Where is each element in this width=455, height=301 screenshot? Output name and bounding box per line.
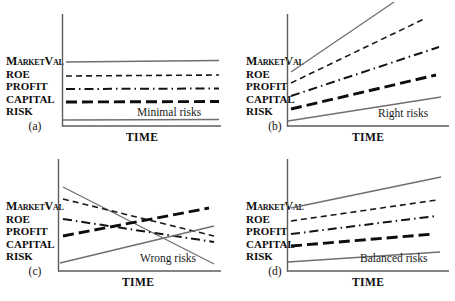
plot-area-a	[0, 0, 227, 150]
x-axis-title-a: TIME	[126, 131, 158, 143]
series-line-capital	[66, 102, 219, 103]
plot-area-b	[228, 0, 455, 150]
series-line-roe	[66, 75, 219, 76]
panel-d: MarketVal ROE PROFIT CAPITAL RISK (d) Ba…	[228, 150, 455, 300]
series-line-marketval	[291, 2, 394, 72]
series-line-roe	[291, 19, 424, 83]
x-axis-title-c: TIME	[122, 276, 154, 288]
panel-caption-a: Minimal risks	[137, 106, 201, 118]
x-axis-title-d: TIME	[352, 276, 384, 288]
series-line-capital	[291, 234, 434, 246]
panel-caption-b: Right risks	[378, 107, 428, 119]
series-line-profit	[66, 89, 219, 90]
plot-area-d	[228, 150, 455, 300]
panel-caption-d: Balanced risks	[360, 252, 427, 264]
panel-c: MarketVal ROE PROFIT CAPITAL RISK (c) Wr…	[0, 150, 227, 300]
x-axis-title-b: TIME	[352, 131, 384, 143]
series-line-profit	[291, 216, 436, 234]
series-line-risk	[63, 120, 219, 121]
panel-a: MarketVal ROE PROFIT CAPITAL RISK (a) Mi…	[0, 0, 227, 150]
series-line-marketval	[291, 177, 441, 208]
panel-b: MarketVal ROE PROFIT CAPITAL RISK (b) Ri…	[228, 0, 455, 150]
plot-area-c	[0, 150, 227, 300]
series-line-marketval	[66, 61, 219, 63]
panel-caption-c: Wrong risks	[140, 252, 196, 264]
series-line-capital	[291, 75, 436, 109]
